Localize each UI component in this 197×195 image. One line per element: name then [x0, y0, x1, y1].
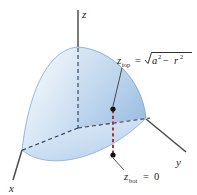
y-axis-line [146, 119, 186, 152]
z-top-equals: = [135, 55, 141, 66]
z-bot-leader-line [113, 158, 124, 170]
z-top-exponent-r: 2 [180, 53, 183, 60]
z-top-equation-label: z top = a 2 − r 2 [116, 53, 192, 69]
z-top-minus-sign: − [163, 55, 169, 66]
z-axis-label: z [81, 8, 87, 20]
z-top-variable: z [116, 55, 121, 66]
x-axis-label: x [8, 182, 14, 194]
z-bot-endpoint-dot [110, 152, 115, 157]
z-top-subscript: top [122, 61, 130, 68]
x-axis-line [13, 150, 22, 180]
z-bot-equation-label: z bot = 0 [123, 171, 159, 184]
z-bot-subscript: bot [129, 177, 138, 184]
z-top-radicand-a: a [152, 55, 157, 66]
hemisphere-z-limits-diagram: z y x z top = a 2 − r 2 z bot = 0 [0, 0, 197, 195]
diagram-canvas: z y x z top = a 2 − r 2 z bot = 0 [0, 0, 197, 195]
z-bot-value: 0 [154, 171, 159, 182]
z-top-exponent-a: 2 [158, 53, 161, 60]
z-bot-variable: z [123, 171, 128, 182]
y-axis-label: y [175, 156, 181, 168]
z-bot-equals: = [143, 171, 149, 182]
z-top-endpoint-dot [110, 106, 115, 111]
z-top-radicand-r: r [174, 55, 179, 66]
